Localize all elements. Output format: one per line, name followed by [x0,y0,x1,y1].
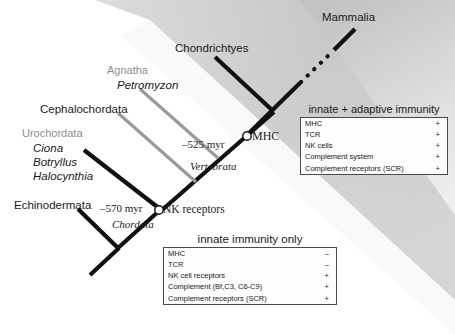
taxon-label-agnatha: Agnatha [107,64,148,76]
taxon-label-halocynthia: Halocynthia [33,170,93,183]
divergence-label-570myr: –570 myr [100,202,142,214]
table-row: Complement receptors (SCR) + [164,293,337,305]
feature-status: – [311,248,337,260]
taxon-label-chondrichtyes: Chondrichtyes [175,42,249,55]
panel-innate-adaptive-immunity: innate + adaptive immunity MHC + TCR + N… [300,103,448,175]
feature-status: – [311,259,337,270]
table-row: MHC – [164,248,337,260]
clade-label-vertebrata: Vertebrata [190,160,236,172]
feature-status: + [311,270,337,281]
taxon-label-mammalia: Mammalia [322,11,375,24]
clade-label-chordata: Chordata [112,218,154,230]
feature-name: NK cells [301,140,423,151]
panel-title-innate: innate immunity only [163,233,337,245]
feature-status: + [422,140,448,151]
panel-innate-immunity-only: innate immunity only MHC – TCR – NK cell… [163,233,337,305]
feature-status: + [422,163,448,175]
feature-name: Complement receptors (SCR) [301,163,423,175]
node-label-nk-receptors: NK receptors [163,203,225,216]
taxon-label-urochordata: Urochordata [22,127,83,139]
feature-status: + [422,118,448,130]
feature-name: TCR [301,129,423,140]
taxon-label-echinodermata: Echinodermata [14,199,91,212]
table-row: NK cell receptors + [164,270,337,281]
feature-name: Complement system [301,151,423,162]
table-row: Complement (Bf,C3, C6-C9) + [164,281,337,292]
taxon-label-ciona: Ciona [33,142,63,155]
feature-name: NK cell receptors [164,270,312,281]
feature-name: MHC [301,118,423,130]
panel-title-adaptive: innate + adaptive immunity [300,103,448,115]
table-innate-features: MHC – TCR – NK cell receptors + Compleme… [163,247,337,305]
table-row: MHC + [301,118,448,130]
taxon-label-botryllus: Botryllus [33,156,77,169]
node-label-mhc: MHC [252,130,279,143]
feature-name: Complement (Bf,C3, C6-C9) [164,281,312,292]
divergence-label-525myr: –525 myr [182,138,224,150]
feature-status: + [311,281,337,292]
feature-name: Complement receptors (SCR) [164,293,312,305]
table-row: Complement receptors (SCR) + [301,163,448,175]
feature-status: + [422,129,448,140]
taxon-label-cephalochordata: Cephalochordata [40,103,128,116]
table-row: TCR – [164,259,337,270]
table-row: NK cells + [301,140,448,151]
table-row: Complement system + [301,151,448,162]
taxon-label-petromyzon: Petromyzon [117,79,178,92]
phylogeny-figure: Mammalia Chondrichtyes Agnatha Petromyzo… [0,0,455,335]
feature-status: + [422,151,448,162]
feature-name: TCR [164,259,312,270]
feature-name: MHC [164,248,312,260]
table-row: TCR + [301,129,448,140]
feature-status: + [311,293,337,305]
table-adaptive-features: MHC + TCR + NK cells + Complement system… [300,117,448,175]
